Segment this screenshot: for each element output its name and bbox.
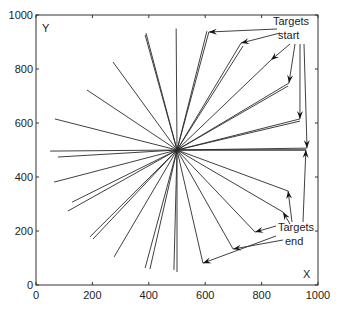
y-axis-letter: Y <box>42 22 50 34</box>
ray-line <box>177 86 288 150</box>
ray-line <box>177 150 288 191</box>
annotation-arrow-line <box>241 33 280 43</box>
targets-end-label-line2: end <box>285 235 303 247</box>
ray-line <box>177 43 241 150</box>
y-tick-label: 800 <box>15 63 33 75</box>
ray-line <box>93 150 177 239</box>
ray-line <box>176 29 177 151</box>
y-tick-label: 400 <box>15 171 33 183</box>
ray-line <box>177 60 271 150</box>
x-axis-letter: X <box>303 268 311 280</box>
x-tick-label: 600 <box>196 289 214 301</box>
ray-line <box>54 150 177 182</box>
axis-ticks: 0200400600800100002004006008001000 <box>9 9 331 301</box>
y-tick-label: 0 <box>27 279 33 291</box>
arrowhead-icon <box>283 212 290 220</box>
ray-line <box>177 46 243 150</box>
ray-line <box>177 150 283 212</box>
ray-line <box>113 62 177 150</box>
x-tick-label: 200 <box>83 289 101 301</box>
targets-start-label-line2: start <box>278 29 299 41</box>
x-tick-label: 800 <box>252 289 270 301</box>
ray-plot: 0200400600800100002004006008001000 Y X T… <box>0 0 339 315</box>
y-tick-label: 1000 <box>9 9 33 21</box>
y-tick-label: 200 <box>15 225 33 237</box>
x-tick-label: 1000 <box>306 289 330 301</box>
x-tick-label: 0 <box>33 289 39 301</box>
annotation-arrow-line <box>233 240 283 249</box>
ray-line <box>55 119 177 150</box>
targets-start-label-line1: Targets <box>273 15 310 27</box>
annotation-arrow-line <box>209 29 277 32</box>
ray-line <box>177 31 207 150</box>
ray-line <box>145 35 177 150</box>
ray-line <box>174 150 177 270</box>
ray-line <box>177 150 203 263</box>
ray-line <box>150 150 177 269</box>
x-tick-label: 400 <box>140 289 158 301</box>
annotation-arrow-line <box>304 44 307 148</box>
targets-end-label-line1: Targets <box>278 221 315 233</box>
ray-line <box>68 150 177 211</box>
annotation-arrow-line <box>303 150 306 222</box>
ray-line <box>177 121 300 150</box>
y-tick-label: 600 <box>15 117 33 129</box>
ray-line <box>145 150 177 268</box>
ray-lines <box>50 29 307 273</box>
